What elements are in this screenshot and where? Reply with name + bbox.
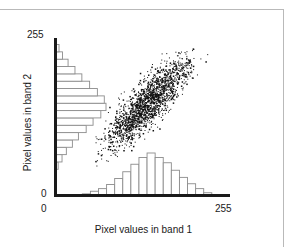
scatter-point <box>167 80 168 81</box>
scatter-point <box>144 95 146 97</box>
scatter-point <box>154 110 155 111</box>
scatter-point <box>161 89 162 90</box>
scatter-point <box>105 138 106 139</box>
scatter-point <box>170 82 171 83</box>
scatter-point <box>188 73 189 74</box>
scatter-point <box>159 108 160 109</box>
scatter-point <box>125 143 126 144</box>
scatter-point <box>121 139 122 140</box>
scatter-point <box>113 131 115 133</box>
scatter-point <box>153 116 154 117</box>
scatter-point <box>177 72 179 74</box>
scatter-point <box>123 133 124 134</box>
scatter-point <box>141 108 142 109</box>
scatter-point <box>125 121 126 122</box>
scatter-point <box>183 72 185 74</box>
scatter-point <box>173 80 174 81</box>
scatter-point <box>173 95 174 96</box>
scatter-point <box>117 156 118 157</box>
scatter-point <box>166 84 167 85</box>
scatter-point <box>123 136 124 137</box>
scatter-point <box>112 150 114 152</box>
scatter-point <box>166 110 168 112</box>
scatter-point <box>164 96 165 97</box>
scatter-point <box>116 113 118 115</box>
scatter-point <box>132 127 133 128</box>
scatter-point <box>176 75 177 76</box>
scatter-point <box>139 115 141 117</box>
scatter-point <box>121 137 122 138</box>
scatter-point <box>159 98 160 99</box>
scatter-point <box>174 94 176 96</box>
scatter-point <box>169 83 170 84</box>
scatter-point <box>155 105 156 106</box>
scatter-point <box>123 110 124 111</box>
scatter-point <box>169 100 170 101</box>
scatter-point <box>103 148 104 149</box>
scatter-point <box>140 100 141 101</box>
scatter-point <box>179 75 180 76</box>
scatter-point <box>130 101 131 102</box>
scatter-point <box>163 110 164 111</box>
scatter-point <box>145 119 146 120</box>
scatter-point <box>166 93 168 95</box>
scatter-point <box>139 123 140 124</box>
scatter-point <box>126 117 127 118</box>
scatter-point <box>160 101 161 102</box>
scatter-point <box>167 71 168 72</box>
scatter-point <box>168 70 169 71</box>
scatter-point <box>128 133 129 134</box>
scatter-point <box>182 58 183 59</box>
scatter-point <box>156 84 157 85</box>
scatter-point <box>131 119 132 120</box>
scatter-point <box>109 147 110 148</box>
scatter-point <box>112 130 113 131</box>
scatter-point <box>141 129 142 130</box>
scatter-point <box>170 73 172 75</box>
scatter-point <box>152 85 153 86</box>
scatter-point <box>170 88 171 89</box>
scatter-point <box>161 103 162 104</box>
band1-histogram-bar <box>123 172 131 195</box>
scatter-point <box>153 98 154 99</box>
scatter-point <box>185 54 186 55</box>
scatter-point <box>167 89 168 90</box>
scatter-point <box>162 79 164 81</box>
scatter-point <box>138 116 139 117</box>
scatter-point <box>151 84 152 85</box>
scatter-point <box>155 99 156 100</box>
scatter-point <box>117 141 118 142</box>
scatter-point <box>169 78 170 79</box>
scatter-point <box>182 81 184 83</box>
scatter-point <box>158 86 159 87</box>
scatter-point <box>184 79 185 80</box>
scatter-point <box>139 135 140 136</box>
scatter-point <box>174 81 175 82</box>
scatter-point <box>110 146 111 147</box>
scatter-point <box>162 101 164 103</box>
scatter-point <box>120 128 121 129</box>
scatter-point <box>167 72 168 73</box>
scatter-point <box>143 114 144 115</box>
scatter-point <box>115 119 117 121</box>
scatter-point <box>124 123 125 124</box>
scatter-point <box>126 138 127 139</box>
scatter-point <box>139 82 140 83</box>
scatter-point <box>143 133 145 135</box>
scatter-point <box>149 117 150 118</box>
scatter-point <box>145 97 147 99</box>
scatter-point <box>162 79 163 80</box>
scatter-point <box>150 98 152 100</box>
scatter-point <box>144 139 145 140</box>
scatter-point <box>168 86 169 87</box>
scatter-point <box>143 98 144 99</box>
scatter-point <box>130 122 131 123</box>
scatter-point <box>155 92 156 93</box>
scatter-point <box>147 122 148 123</box>
scatter-point <box>176 80 177 81</box>
scatter-point <box>101 155 103 157</box>
scatter-point <box>127 140 128 141</box>
scatter-point <box>161 86 163 88</box>
scatter-point <box>132 135 134 137</box>
scatter-point <box>191 64 192 65</box>
